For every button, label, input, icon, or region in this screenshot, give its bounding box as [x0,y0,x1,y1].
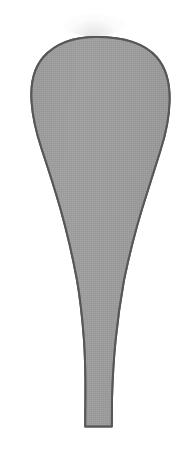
image-canvas [0,0,185,463]
shape-illustration [0,0,185,463]
shape-texture-overlay [0,0,185,463]
